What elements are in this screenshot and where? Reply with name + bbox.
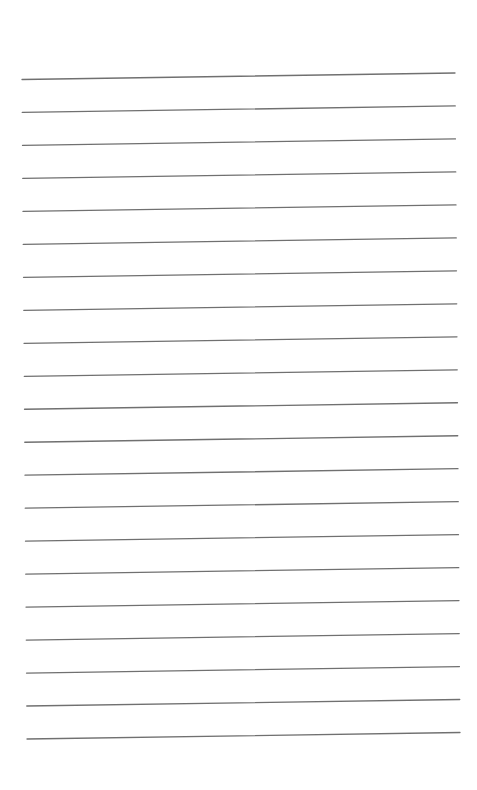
ruled-line	[24, 337, 457, 344]
ruled-line	[27, 700, 460, 707]
lined-paper-sheet	[0, 0, 477, 790]
ruled-line	[26, 535, 459, 542]
ruled-line	[22, 106, 455, 113]
ruled-line	[25, 403, 458, 410]
ruled-line	[23, 139, 456, 146]
ruled-line	[26, 634, 459, 641]
ruled-line	[25, 469, 458, 476]
ruled-line	[24, 304, 457, 311]
ruled-line	[27, 667, 460, 674]
ruled-line	[23, 238, 456, 245]
ruled-line	[26, 568, 459, 575]
ruled-line	[25, 436, 458, 443]
ruled-line	[27, 733, 460, 740]
ruled-line	[26, 601, 459, 608]
ruled-line	[22, 73, 455, 80]
ruled-line	[24, 271, 457, 278]
ruled-line	[25, 502, 458, 509]
ruled-lines	[0, 0, 477, 790]
ruled-line	[23, 172, 456, 179]
ruled-line	[24, 370, 457, 377]
ruled-line	[23, 205, 456, 212]
